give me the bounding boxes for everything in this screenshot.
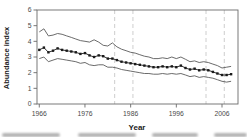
- data-point-marker: [212, 71, 214, 73]
- data-point-marker: [166, 66, 168, 68]
- cropped-caption-remnant: [0, 132, 247, 137]
- x-tick-label: 1966: [32, 110, 47, 117]
- caption-fragment: [2, 133, 60, 137]
- data-point-marker: [120, 61, 122, 63]
- data-point-marker: [207, 69, 209, 71]
- data-point-marker: [193, 68, 195, 70]
- data-point-marker: [157, 66, 159, 68]
- data-point-marker: [47, 51, 49, 53]
- data-point-marker: [102, 55, 104, 57]
- y-tick-label: 4: [28, 38, 32, 45]
- data-point-marker: [61, 49, 63, 51]
- data-point-marker: [107, 57, 109, 59]
- data-point-marker: [143, 64, 145, 66]
- data-point-marker: [111, 57, 113, 59]
- data-point-marker: [79, 53, 81, 55]
- data-point-marker: [66, 50, 68, 52]
- abundance-index-line: [39, 48, 231, 75]
- x-axis-title: Year: [129, 123, 146, 132]
- caption-fragment: [78, 133, 136, 137]
- data-point-marker: [129, 62, 131, 64]
- data-point-marker: [198, 69, 200, 71]
- y-tick-label: 2: [28, 69, 32, 76]
- data-point-marker: [230, 73, 232, 75]
- data-point-marker: [225, 74, 227, 76]
- data-point-marker: [56, 47, 58, 49]
- y-tick-label: 3: [28, 53, 32, 60]
- data-point-marker: [180, 64, 182, 66]
- data-point-marker: [221, 74, 223, 76]
- data-point-marker: [38, 49, 40, 51]
- data-point-marker: [189, 68, 191, 70]
- data-point-marker: [175, 66, 177, 68]
- x-tick-label: 2006: [214, 110, 229, 117]
- data-point-marker: [70, 50, 72, 52]
- data-point-marker: [43, 46, 45, 48]
- data-point-marker: [98, 54, 100, 56]
- data-point-marker: [152, 66, 154, 68]
- data-point-marker: [88, 54, 90, 56]
- data-point-marker: [52, 50, 54, 52]
- y-tick-label: 6: [28, 6, 32, 13]
- y-axis-title: Abundance index: [2, 26, 11, 89]
- x-tick-label: 1986: [123, 110, 138, 117]
- caption-fragment: [152, 133, 198, 137]
- data-point-marker: [93, 56, 95, 58]
- data-point-marker: [116, 59, 118, 61]
- upper-confidence-limit-line: [39, 29, 231, 68]
- data-point-marker: [148, 65, 150, 67]
- data-point-marker: [184, 67, 186, 69]
- data-point-marker: [134, 63, 136, 65]
- abundance-trend-chart: Abundance index Year 1966197619861996200…: [0, 0, 247, 137]
- x-tick-label: 1996: [169, 110, 184, 117]
- y-tick-label: 1: [28, 85, 32, 92]
- data-point-marker: [216, 72, 218, 74]
- data-point-marker: [125, 61, 127, 63]
- x-tick-label: 1976: [77, 110, 92, 117]
- y-tick-label: 0: [28, 100, 32, 107]
- data-point-marker: [171, 65, 173, 67]
- data-point-marker: [84, 52, 86, 54]
- data-point-marker: [161, 65, 163, 67]
- data-point-marker: [139, 64, 141, 66]
- data-point-marker: [75, 51, 77, 53]
- y-tick-label: 5: [28, 22, 32, 29]
- plot-border: [37, 10, 238, 104]
- caption-fragment: [214, 133, 247, 137]
- data-point-marker: [203, 68, 205, 70]
